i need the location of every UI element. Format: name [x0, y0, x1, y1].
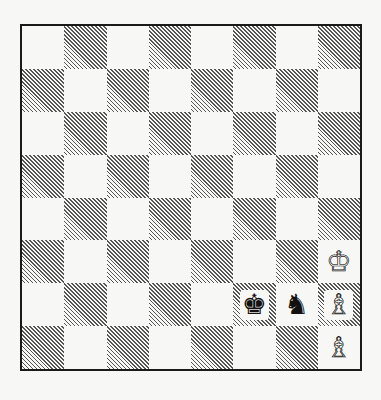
square-a2	[22, 283, 64, 326]
square-h4	[318, 198, 360, 241]
square-h2: ♗	[318, 283, 360, 326]
square-c4	[107, 198, 149, 241]
square-c8	[107, 26, 149, 69]
square-e4	[191, 198, 233, 241]
square-a3	[22, 240, 64, 283]
square-e3	[191, 240, 233, 283]
square-f6	[233, 112, 275, 155]
square-g4	[276, 198, 318, 241]
square-f4	[233, 198, 275, 241]
square-h7	[318, 69, 360, 112]
square-h1: ♗	[318, 326, 360, 369]
square-b6	[64, 112, 106, 155]
square-d4	[149, 198, 191, 241]
square-f5	[233, 155, 275, 198]
square-g2: ♞	[276, 283, 318, 326]
chess-board: ♔♚♞♗♗	[20, 24, 362, 371]
square-a5	[22, 155, 64, 198]
square-h6	[318, 112, 360, 155]
square-c2	[107, 283, 149, 326]
square-b1	[64, 326, 106, 369]
square-c6	[107, 112, 149, 155]
square-b5	[64, 155, 106, 198]
square-f1	[233, 326, 275, 369]
square-g7	[276, 69, 318, 112]
square-h8	[318, 26, 360, 69]
square-b2	[64, 283, 106, 326]
square-e2	[191, 283, 233, 326]
square-e6	[191, 112, 233, 155]
square-e8	[191, 26, 233, 69]
square-a1	[22, 326, 64, 369]
square-e5	[191, 155, 233, 198]
square-c1	[107, 326, 149, 369]
square-g6	[276, 112, 318, 155]
square-g5	[276, 155, 318, 198]
square-f3	[233, 240, 275, 283]
white-bishop-icon: ♗	[326, 334, 351, 362]
square-g8	[276, 26, 318, 69]
square-f7	[233, 69, 275, 112]
square-a4	[22, 198, 64, 241]
square-d3	[149, 240, 191, 283]
square-a7	[22, 69, 64, 112]
square-b3	[64, 240, 106, 283]
square-d1	[149, 326, 191, 369]
square-b8	[64, 26, 106, 69]
white-king-icon: ♔	[326, 248, 351, 276]
square-e1	[191, 326, 233, 369]
square-h3: ♔	[318, 240, 360, 283]
square-f2: ♚	[233, 283, 275, 326]
square-d7	[149, 69, 191, 112]
square-e7	[191, 69, 233, 112]
black-king-icon: ♚	[240, 290, 269, 320]
square-c7	[107, 69, 149, 112]
white-bishop-icon: ♗	[324, 290, 353, 320]
square-d2	[149, 283, 191, 326]
square-b7	[64, 69, 106, 112]
square-a8	[22, 26, 64, 69]
square-c5	[107, 155, 149, 198]
square-b4	[64, 198, 106, 241]
square-g1	[276, 326, 318, 369]
square-g3	[276, 240, 318, 283]
black-knight-icon: ♞	[284, 291, 309, 319]
square-d5	[149, 155, 191, 198]
square-a6	[22, 112, 64, 155]
square-h5	[318, 155, 360, 198]
square-c3	[107, 240, 149, 283]
square-d6	[149, 112, 191, 155]
square-d8	[149, 26, 191, 69]
square-f8	[233, 26, 275, 69]
